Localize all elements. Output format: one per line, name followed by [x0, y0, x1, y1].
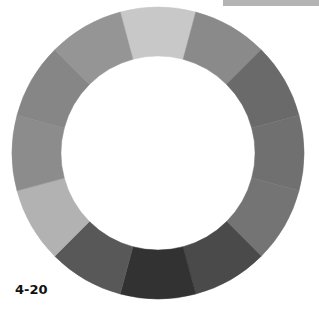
color-wheel [0, 0, 319, 311]
wheel-segment [120, 7, 196, 59]
wheel-segment [12, 115, 64, 191]
wheel-segment [120, 247, 196, 299]
figure-label: 4-20 [15, 282, 48, 297]
wheel-segment [252, 115, 304, 191]
